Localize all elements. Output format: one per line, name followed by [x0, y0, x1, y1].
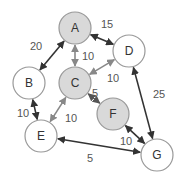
- edge-weight-label: 10: [17, 107, 29, 119]
- edge-weight-label: 5: [87, 152, 93, 164]
- node-c: C: [59, 67, 91, 99]
- node-e: E: [25, 120, 57, 152]
- node-label: C: [71, 76, 80, 90]
- node-label: B: [25, 76, 33, 90]
- edge-weight-label: 10: [65, 112, 77, 124]
- node-d: D: [113, 35, 145, 67]
- edge-a-b: [40, 41, 64, 70]
- edge-d-g: [133, 67, 152, 138]
- graph-canvas: 201015105101025105 ABCDEFG: [0, 0, 187, 184]
- edge-weight-label: 15: [101, 18, 113, 30]
- edge-weight-label: 25: [153, 88, 165, 100]
- graph-diagram: 201015105101025105 ABCDEFG: [0, 0, 187, 184]
- edge-weight-label: 20: [30, 40, 42, 52]
- node-label: A: [71, 21, 79, 35]
- edge-c-e: [50, 97, 66, 121]
- node-g: G: [141, 139, 173, 171]
- edge-b-e: [33, 100, 37, 120]
- node-a: A: [59, 12, 91, 44]
- edge-weight-label: 10: [107, 72, 119, 84]
- node-label: D: [125, 44, 134, 58]
- node-label: E: [37, 129, 45, 143]
- node-b: B: [13, 67, 45, 99]
- edge-weight-label: 10: [120, 135, 132, 147]
- edge-a-d: [91, 35, 114, 45]
- node-f: F: [97, 98, 129, 130]
- node-label: G: [152, 148, 161, 162]
- edge-weight-label: 5: [92, 87, 98, 99]
- node-label: F: [109, 107, 116, 121]
- edge-weight-label: 10: [82, 50, 94, 62]
